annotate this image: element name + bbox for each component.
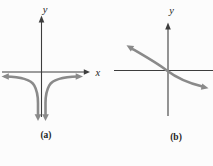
panel-b: y (b) bbox=[114, 5, 213, 143]
curve-a-left-branch bbox=[6, 77, 39, 115]
curve-b bbox=[131, 48, 203, 87]
arrow-up-icon bbox=[165, 23, 171, 30]
y-axis-label-a: y bbox=[42, 4, 48, 15]
curve-arrow-down-left-icon bbox=[35, 114, 42, 121]
panel-b-caption: (b) bbox=[170, 132, 182, 143]
curve-arrow-left-icon bbox=[2, 73, 9, 80]
curve-arrow-down-right-icon bbox=[201, 84, 209, 90]
arrow-right-icon bbox=[84, 69, 90, 74]
arrow-up-icon bbox=[39, 16, 45, 23]
panel-a: y x (a) bbox=[2, 4, 101, 142]
curve-arrow-right-icon bbox=[76, 73, 83, 80]
x-axis-label-a: x bbox=[95, 67, 101, 78]
curve-a-right-branch bbox=[46, 77, 79, 115]
curve-arrow-down-right-icon bbox=[42, 114, 49, 121]
figure-canvas: y x (a) y (b) bbox=[0, 0, 213, 166]
figure-two-curve-sketches: y x (a) y (b) bbox=[0, 0, 213, 166]
y-axis-label-b: y bbox=[168, 5, 174, 16]
panel-a-caption: (a) bbox=[40, 130, 51, 141]
